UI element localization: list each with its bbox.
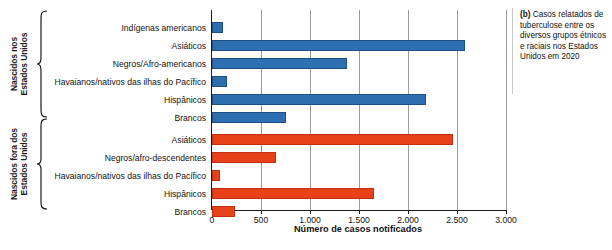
bar	[212, 112, 286, 123]
category-label: Havaianos/nativos das ilhas do Pacífico	[55, 168, 206, 184]
bar	[212, 58, 347, 69]
bar	[212, 94, 426, 105]
group-axis-born-outside-us: Nascidos fora dosEstados Unidos	[2, 118, 36, 210]
bar	[212, 152, 276, 163]
x-axis-title: Número de casos notificados	[211, 224, 505, 234]
category-label-column: Indígenas americanos Asiáticos Negros/Af…	[48, 10, 208, 210]
caption-divider	[512, 8, 513, 94]
chart-figure: Nascidos nosEstados Unidos Nascidos fora…	[0, 0, 612, 250]
group-axis-born-outside-us-label: Nascidos fora dosEstados Unidos	[9, 128, 29, 200]
x-tick	[261, 210, 262, 214]
bar	[212, 76, 227, 87]
group-axis-born-in-us: Nascidos nosEstados Unidos	[2, 10, 36, 118]
bar	[212, 188, 374, 199]
bar	[212, 170, 220, 181]
category-label: Havaianos/nativos das ilhas do Pacífico	[55, 74, 206, 90]
category-label: Negros/Afro-americanos	[113, 56, 206, 72]
plot-area: 05001.0001.5002.0002.5003.000	[211, 10, 505, 210]
gridline	[506, 10, 507, 210]
category-label: Hispânicos	[164, 92, 206, 108]
x-tick	[310, 210, 311, 214]
figure-caption: (b) Casos relatados de tuberculose entre…	[520, 10, 608, 63]
category-label: Hispânicos	[164, 186, 206, 202]
category-label: Brancos	[174, 110, 206, 126]
brace-born-in-us-icon	[36, 10, 48, 118]
x-tick	[506, 210, 507, 214]
group-axis-born-in-us-label: Nascidos nosEstados Unidos	[9, 33, 29, 96]
caption-text: Casos relatados de tuberculose entre os …	[520, 10, 606, 61]
caption-marker: (b)	[520, 10, 530, 19]
category-label: Asiáticos	[172, 38, 206, 54]
x-tick	[408, 210, 409, 214]
x-tick	[457, 210, 458, 214]
category-label: Indígenas americanos	[121, 20, 206, 36]
category-label: Asiáticos	[172, 132, 206, 148]
category-label: Negros/afro-descendentes	[105, 150, 206, 166]
bar	[212, 22, 223, 33]
x-tick	[359, 210, 360, 214]
brace-born-outside-us-icon	[36, 118, 48, 210]
bar	[212, 206, 235, 217]
bar	[212, 134, 453, 145]
bar	[212, 40, 465, 51]
